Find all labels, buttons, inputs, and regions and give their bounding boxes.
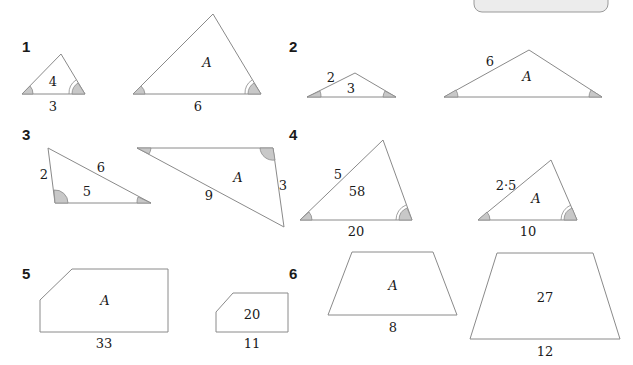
area-label: A <box>201 55 211 70</box>
question-2: 2 2 3 6 A <box>289 38 602 97</box>
question-1: 1 4 3 A 6 <box>22 14 261 114</box>
figure-small-triangle: 2 6 5 <box>40 148 151 203</box>
side-label: 5 <box>334 167 342 182</box>
figure-large-triangle: 2·5 A 10 <box>478 160 577 239</box>
side-label: 6 <box>97 160 105 175</box>
question-number: 6 <box>289 265 297 282</box>
area-label: 5 <box>83 184 91 199</box>
exercise-page: 1 4 3 A 6 2 2 3 <box>0 0 633 365</box>
side-label: 12 <box>537 344 554 359</box>
question-6: 6 A 8 27 12 <box>289 252 620 359</box>
side-label: 33 <box>96 336 113 351</box>
angle-marker-icon <box>383 91 396 97</box>
question-number: 4 <box>289 126 298 143</box>
question-4: 4 5 58 20 2·5 A 10 <box>289 126 577 239</box>
angle-marker-icon <box>307 91 321 97</box>
question-5: 5 A 33 20 11 <box>22 265 288 351</box>
angle-marker-icon <box>137 148 151 154</box>
figure-large-trapezium: 27 12 <box>470 253 620 359</box>
side-label: 2 <box>40 167 48 182</box>
figure-large-pentagon: A 33 <box>40 269 168 351</box>
figure-small-pentagon: 20 11 <box>216 293 288 351</box>
area-label: A <box>232 170 242 185</box>
side-label: 8 <box>389 320 397 335</box>
question-number: 3 <box>22 126 30 143</box>
side-label: 2·5 <box>496 178 517 193</box>
area-label: A <box>387 278 397 293</box>
figure-small-trapezium: A 8 <box>328 252 457 335</box>
area-label: 27 <box>537 290 554 305</box>
area-label: 4 <box>49 74 57 89</box>
figure-large-triangle: A 6 <box>133 14 261 114</box>
area-label: A <box>530 191 540 206</box>
question-number: 5 <box>22 265 30 282</box>
side-label: 6 <box>194 99 202 114</box>
figure-large-triangle: A 3 9 <box>137 148 287 227</box>
figure-small-triangle: 4 3 <box>22 54 85 114</box>
angle-marker-icon <box>137 197 151 203</box>
area-label: A <box>521 69 531 84</box>
question-number: 2 <box>289 38 297 55</box>
figure-small-triangle: 2 3 <box>307 70 396 97</box>
area-label: 58 <box>349 184 366 199</box>
side-label: 11 <box>244 336 261 351</box>
question-3: 3 2 6 5 A 3 9 <box>22 126 287 227</box>
side-label: 2 <box>327 70 335 85</box>
side-label: 9 <box>205 188 213 203</box>
side-label: 3 <box>279 178 287 193</box>
side-label: 10 <box>520 224 537 239</box>
side-label: 20 <box>348 224 365 239</box>
angle-marker-icon <box>300 212 312 220</box>
area-label: A <box>99 293 109 308</box>
angle-marker-icon <box>22 86 33 94</box>
question-number: 1 <box>22 38 30 55</box>
side-label: 6 <box>486 54 494 69</box>
angle-marker-icon <box>444 90 458 97</box>
figure-small-triangle: 5 58 20 <box>300 140 412 239</box>
angle-marker-icon <box>589 90 602 97</box>
figure-large-triangle: 6 A <box>444 50 602 97</box>
area-label: 20 <box>244 307 261 322</box>
header-tab <box>474 0 608 12</box>
area-label: 3 <box>347 81 355 96</box>
side-label: 3 <box>49 99 57 114</box>
angle-marker-icon <box>478 212 490 220</box>
